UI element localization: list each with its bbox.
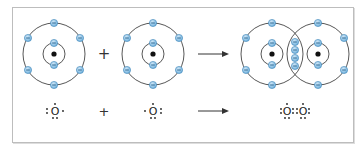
lewis-oxygen-right: O [144,103,162,119]
lewis-oxygen-left: O [46,103,64,119]
nucleus [51,51,56,56]
nucleus-right [315,51,320,56]
plus-sign-lewis: + [99,104,110,119]
reaction-arrow-top [198,51,229,57]
svg-text:O: O [299,105,308,118]
svg-text:O: O [149,105,158,118]
svg-text:O: O [283,105,292,118]
reaction-arrow-bottom [198,108,229,114]
nucleus [150,51,155,56]
svg-text:O: O [51,105,60,118]
oxygen-bond-diagram: + [0,0,364,151]
oxygen-molecule [241,19,349,88]
lewis-oxygen-molecule: O O [280,103,310,119]
caption-line [12,146,352,150]
shared-electron-pair [291,38,298,69]
nucleus-left [269,51,274,56]
oxygen-atom-left [23,19,85,88]
plus-sign: + [98,45,111,63]
oxygen-atom-right [122,19,184,88]
